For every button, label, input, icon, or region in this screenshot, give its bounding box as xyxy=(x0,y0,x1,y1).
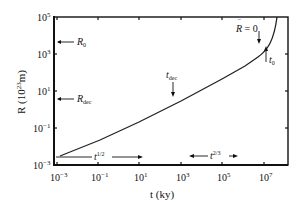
arrow-left-icon xyxy=(57,97,61,101)
arrow-left-icon xyxy=(57,40,61,44)
x-tick-label: 10−1 xyxy=(91,171,109,183)
y-tick-label: 103 xyxy=(37,48,51,60)
y-tick-label: 101 xyxy=(37,85,51,97)
svg-text:t2/3: t2/3 xyxy=(210,150,220,161)
x-tick-label: 10−3 xyxy=(50,171,68,183)
x-tick-label: 103 xyxy=(176,171,190,183)
svg-text:¨: ¨ xyxy=(238,17,241,26)
arrow-right-icon xyxy=(138,155,143,159)
y-tick-label: 10−3 xyxy=(33,159,51,171)
y-ticks xyxy=(54,54,288,128)
svg-text:tdec: tdec xyxy=(166,69,177,81)
x-ticks xyxy=(57,17,264,165)
svg-text:t1/2: t1/2 xyxy=(94,151,104,162)
r-of-t-curve xyxy=(60,17,277,156)
svg-text:R0: R0 xyxy=(76,36,86,48)
y-tick-label: 10−1 xyxy=(33,122,51,134)
rdec-annotation: Rdec xyxy=(57,93,92,105)
plot-frame xyxy=(54,17,288,165)
r-ddot-zero-annotation: R = 0 ¨ xyxy=(235,17,261,44)
y-axis-label: R (1023m) xyxy=(15,70,28,114)
arrow-right-icon xyxy=(233,154,238,158)
x-axis-label: t (ky) xyxy=(150,188,174,201)
y-tick-label: 105 xyxy=(37,11,51,23)
tdec-annotation: tdec xyxy=(166,69,177,97)
x-tick-label: 105 xyxy=(217,171,231,183)
r0-annotation: R0 xyxy=(57,36,86,48)
x-tick-labels: 10−3 10−1 101 103 105 107 xyxy=(50,171,273,183)
y-tick-labels: 105 103 101 10−1 10−3 xyxy=(33,11,51,171)
x-tick-label: 107 xyxy=(259,171,273,183)
x-tick-label: 101 xyxy=(134,171,148,183)
arrow-down-icon xyxy=(257,39,261,44)
arrow-down-icon xyxy=(171,92,175,97)
t0-annotation: t0 xyxy=(264,46,275,66)
chart: 10−3 10−1 101 103 105 107 105 103 101 10… xyxy=(0,0,301,203)
t-two-thirds-range-annotation: t2/3 xyxy=(189,150,238,161)
svg-text:t0: t0 xyxy=(269,54,275,66)
svg-text:Rdec: Rdec xyxy=(76,93,92,105)
